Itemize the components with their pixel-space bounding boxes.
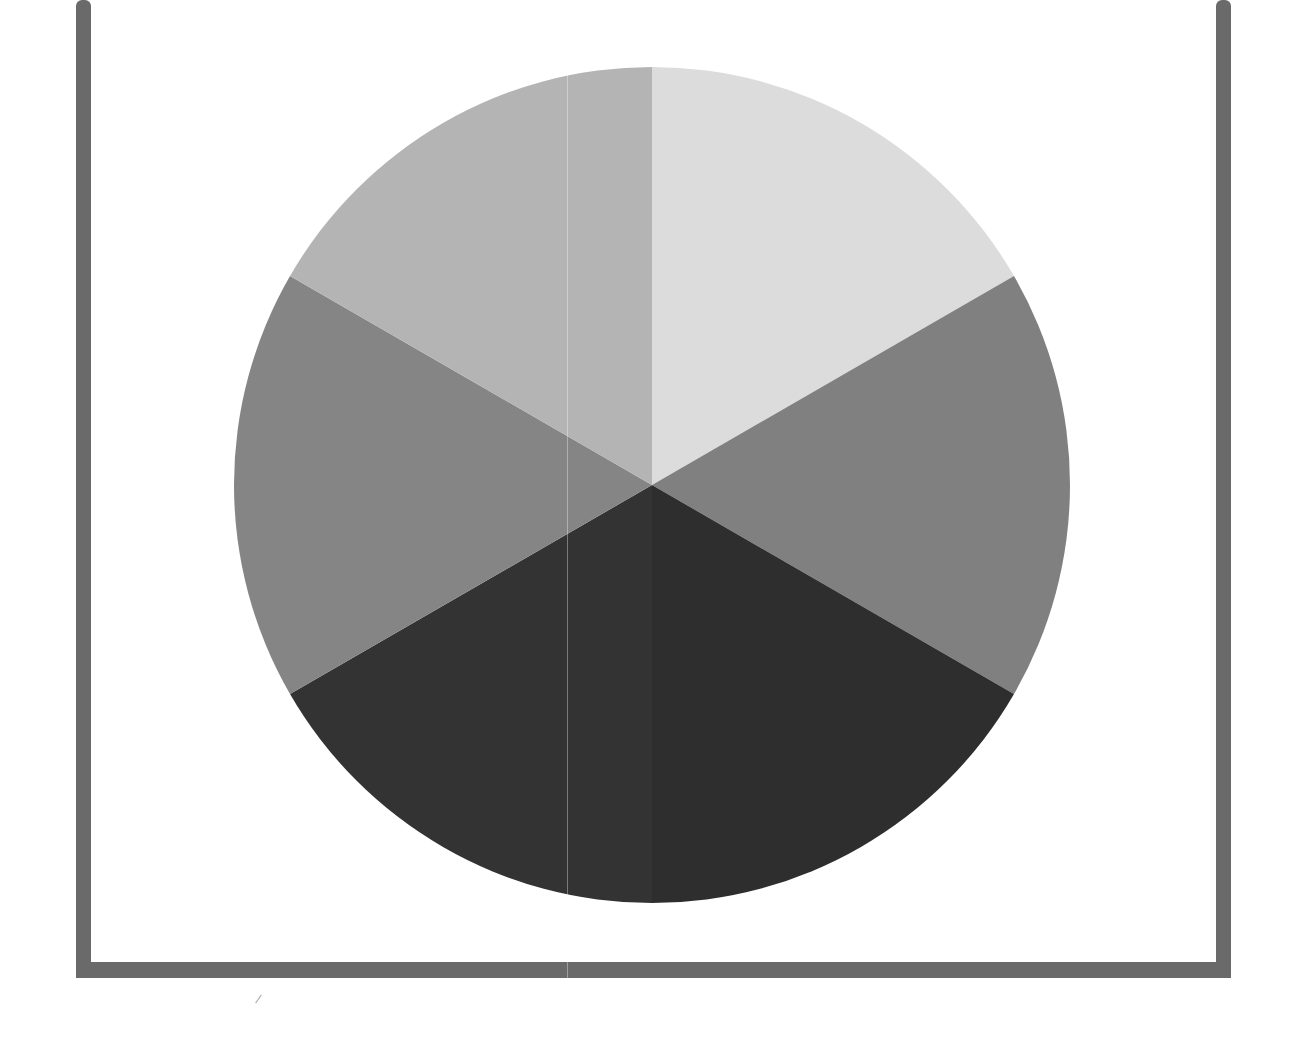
pie-chart — [0, 0, 1305, 1038]
vertical-seam — [567, 72, 568, 978]
